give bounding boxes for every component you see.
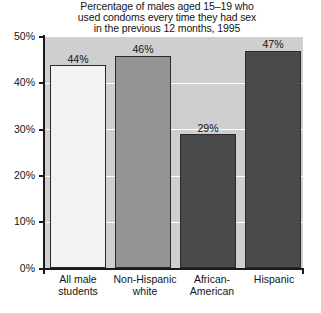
y-axis-label-40: 40% [0, 76, 35, 88]
chart-title-line-3: in the previous 12 months, 1995 [42, 23, 292, 34]
x-axis-label-line-1: All male [44, 273, 112, 285]
bar-non-hispanic-white [115, 56, 171, 269]
bar-african-american [180, 134, 236, 268]
y-tick-30 [39, 129, 43, 131]
bar-all-male-students [50, 65, 106, 268]
y-tick-20 [39, 175, 43, 177]
x-axis-label-hispanic: Hispanic [243, 273, 305, 285]
y-tick-0 [39, 268, 43, 270]
bar-value-african-american: 29% [180, 122, 236, 134]
x-axis-label-line-2: students [44, 285, 112, 297]
x-axis-label-non-hispanic-white: Non-Hispanic white [108, 273, 182, 297]
y-tick-40 [39, 82, 43, 84]
x-axis-label-african-american: African- American [178, 273, 246, 297]
plot-area [44, 37, 303, 268]
x-axis-label-line-1: African- [178, 273, 246, 285]
bar-value-hispanic: 47% [245, 38, 301, 50]
x-axis-label-line-2: American [178, 285, 246, 297]
x-axis-label-line-1: Non-Hispanic [108, 273, 182, 285]
y-tick-50 [39, 36, 43, 38]
y-axis-label-0: 0% [0, 262, 35, 274]
bar-value-non-hispanic-white: 46% [115, 43, 171, 55]
bar-value-all-male-students: 44% [50, 53, 106, 65]
y-axis-label-50: 50% [0, 30, 35, 42]
x-axis-label-all-male-students: All male students [44, 273, 112, 297]
x-axis-line [43, 268, 304, 270]
x-axis-label-line-1: Hispanic [243, 273, 305, 285]
bar-hispanic [245, 51, 301, 268]
y-axis-line [43, 35, 45, 270]
chart-title: Percentage of males aged 15–19 who used … [42, 1, 292, 35]
x-axis-label-line-2: white [108, 285, 182, 297]
y-axis-label-20: 20% [0, 169, 35, 181]
y-tick-10 [39, 221, 43, 223]
y-axis-label-30: 30% [0, 123, 35, 135]
y-axis-label-10: 10% [0, 215, 35, 227]
bar-chart: Percentage of males aged 15–19 who used … [0, 0, 321, 313]
